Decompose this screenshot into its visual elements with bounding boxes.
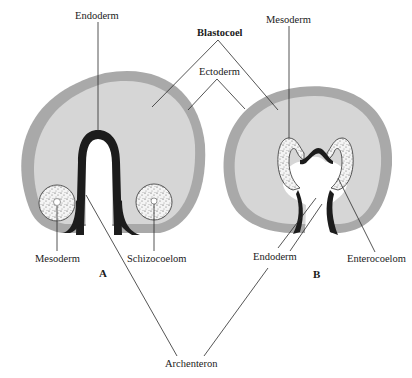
label-ectoderm: Ectoderm [199, 66, 240, 78]
embryo-diagram-svg [0, 0, 412, 378]
panel-a-schizocoel-right [151, 198, 157, 204]
panel-a-schizocoel-left [54, 199, 61, 206]
panel-label-a: A [99, 267, 107, 279]
panel-a [21, 71, 205, 246]
panel-label-b: B [313, 268, 320, 280]
label-endoderm-a: Endoderm [75, 10, 119, 22]
label-blastocoel: Blastocoel [197, 27, 243, 39]
label-mesoderm-b: Mesoderm [266, 14, 311, 26]
label-enterocoelom: Enterocoelom [347, 253, 406, 265]
label-schizocoelom: Schizocoelom [127, 253, 186, 265]
label-archenteron: Archenteron [165, 358, 217, 370]
diagram-canvas: Endoderm Blastocoel Ectoderm Mesoderm Me… [0, 0, 412, 378]
panel-a-archenteron-cavity [86, 138, 112, 240]
panel-b [224, 86, 392, 246]
label-mesoderm-a: Mesoderm [35, 253, 80, 265]
label-endoderm-b: Endoderm [253, 251, 297, 263]
